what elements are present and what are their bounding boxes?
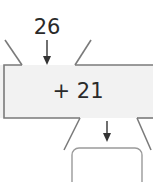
output-arrow <box>103 121 111 142</box>
bottom-funnel-left-line <box>64 118 80 150</box>
bottom-funnel-right-line <box>137 118 151 150</box>
input-number: 26 <box>34 15 61 39</box>
answer-box[interactable] <box>72 148 142 182</box>
operation-label: + 21 <box>53 79 104 103</box>
input-arrow <box>43 40 51 65</box>
top-funnel-left-line <box>5 40 22 65</box>
top-funnel-right-line <box>75 40 91 65</box>
function-machine-diagram: 26 + 21 <box>0 0 153 182</box>
